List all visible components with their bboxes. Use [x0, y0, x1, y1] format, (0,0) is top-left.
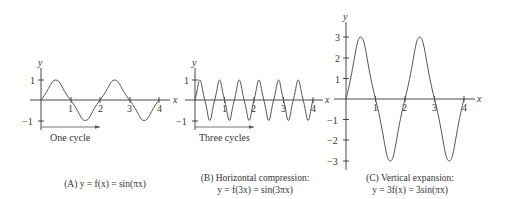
cycle-annotation: Three cycles: [199, 132, 250, 143]
caption-b-title: (B) Horizontal compression:: [190, 172, 320, 184]
caption-a-prefix: (A): [64, 179, 80, 189]
graph-b: y x 1 −1 1 2 3 4 Three cycles: [176, 57, 330, 143]
y-axis-label: y: [191, 57, 197, 68]
x-tick-1: 1: [68, 103, 73, 114]
y-tick-1: 1: [30, 75, 35, 86]
x-tick-2: 2: [98, 103, 103, 114]
y-tick-neg2: −2: [327, 135, 338, 146]
x-tick-3: 3: [127, 103, 132, 114]
x-axis-label: x: [172, 94, 178, 105]
y-tick-neg1: −1: [327, 115, 338, 126]
caption-c-title: (C) Vertical expansion:: [345, 172, 475, 184]
caption-a: (A) y = f(x) = sin(πx): [40, 178, 170, 190]
y-tick-neg1: −1: [176, 116, 187, 127]
cycle-annotation: One cycle: [50, 132, 91, 143]
y-tick-1: 1: [184, 75, 189, 86]
x-axis-label: x: [324, 94, 330, 105]
y-tick-1: 1: [335, 74, 340, 85]
figure-canvas: y x 1 −1 1 2 3 4 One cycle y x 1 −1: [0, 0, 505, 199]
caption-b: (B) Horizontal compression: y = f(3x) = …: [190, 172, 320, 196]
y-tick-3: 3: [335, 32, 340, 43]
y-axis-label: y: [342, 11, 348, 22]
caption-a-equation: y = f(x) = sin(πx): [80, 179, 146, 189]
caption-c: (C) Vertical expansion: y = 3f(x) = 3sin…: [345, 172, 475, 196]
y-tick-neg3: −3: [327, 156, 338, 167]
x-tick-4: 4: [157, 103, 162, 114]
y-tick-neg1: −1: [22, 116, 33, 127]
caption-b-equation: y = f(3x) = sin(3πx): [190, 184, 320, 196]
graph-a: y x 1 −1 1 2 3 4 One cycle: [22, 57, 178, 143]
caption-c-equation: y = 3f(x) = 3sin(πx): [345, 184, 475, 196]
graph-c: y x 3 2 1 −1 −2 −3 1 2 3 4: [327, 11, 482, 170]
y-axis-label: y: [37, 57, 43, 68]
y-tick-2: 2: [335, 53, 340, 64]
x-axis-label: x: [476, 93, 482, 104]
